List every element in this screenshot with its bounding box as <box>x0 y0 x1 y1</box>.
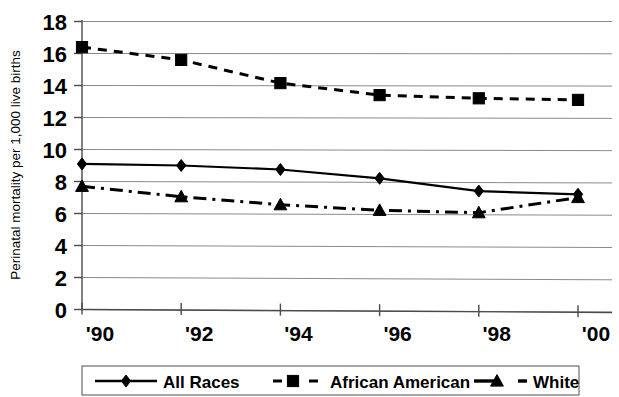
y-tick-labels: 024681012141618 <box>43 10 68 323</box>
legend-item[interactable]: African American <box>273 373 470 392</box>
legend-label: All Races <box>163 373 240 392</box>
square-data-marker <box>176 54 187 65</box>
diamond-data-marker <box>77 158 86 170</box>
data-series <box>77 158 582 200</box>
y-tick-label: 14 <box>43 74 68 99</box>
x-tick-label: '96 <box>383 322 411 345</box>
diamond-data-marker <box>474 185 483 197</box>
diamond-data-marker <box>276 164 285 176</box>
y-tick-label: 8 <box>55 170 67 195</box>
legend-item[interactable]: All Races <box>95 373 240 392</box>
gridline <box>82 86 612 87</box>
y-tick-label: 0 <box>55 298 67 323</box>
chart-canvas: Perinatal mortality per 1,000 live birth… <box>0 0 619 397</box>
legend-label: African American <box>330 373 470 392</box>
gridline <box>82 246 612 248</box>
x-tick-label: '98 <box>483 322 512 345</box>
x-axis-line <box>82 310 612 313</box>
y-tick-label: 18 <box>43 10 67 35</box>
square-data-marker <box>473 93 484 104</box>
y-tick-label: 12 <box>43 106 67 131</box>
x-tick-labels: '90'92'94'96'98'00 <box>86 322 610 345</box>
series-group <box>76 42 585 218</box>
triangle-data-marker <box>572 191 585 203</box>
gridline <box>82 182 612 183</box>
gridline <box>82 278 612 280</box>
y-axis-title: Perinatal mortality per 1,000 live birth… <box>8 50 23 280</box>
data-series <box>76 42 583 106</box>
gridline <box>82 214 612 216</box>
y-tick-label: 4 <box>55 234 68 259</box>
chart-legend: All RacesAfrican AmericanWhite <box>82 366 579 395</box>
y-tick-label: 6 <box>55 202 67 227</box>
y-axis-title-text: Perinatal mortality per 1,000 live birth… <box>8 50 23 280</box>
y-tick-label: 16 <box>43 42 67 67</box>
legend-item[interactable]: White <box>474 373 579 392</box>
square-data-marker <box>76 42 87 53</box>
legend-diamond-marker-icon <box>121 375 130 387</box>
data-series <box>76 180 585 218</box>
x-tick-label: '92 <box>185 322 213 345</box>
x-tick-label: '94 <box>284 322 313 345</box>
legend-label: White <box>533 373 579 392</box>
square-data-marker <box>572 94 583 105</box>
perinatal-mortality-chart: Perinatal mortality per 1,000 live birth… <box>0 0 619 397</box>
gridline <box>82 118 612 119</box>
y-tick-label: 10 <box>43 138 67 163</box>
legend-square-marker-icon <box>287 375 298 386</box>
series-line <box>82 186 578 212</box>
triangle-data-marker <box>373 204 386 216</box>
x-tick-label: '90 <box>86 322 114 345</box>
gridline <box>82 150 612 151</box>
gridlines <box>82 22 612 313</box>
series-line <box>82 164 578 194</box>
series-line <box>82 47 578 100</box>
square-data-marker <box>374 90 385 101</box>
y-tick-label: 2 <box>55 266 67 291</box>
square-data-marker <box>275 78 286 89</box>
x-tick-label: '00 <box>582 322 610 345</box>
diamond-data-marker <box>177 160 186 172</box>
